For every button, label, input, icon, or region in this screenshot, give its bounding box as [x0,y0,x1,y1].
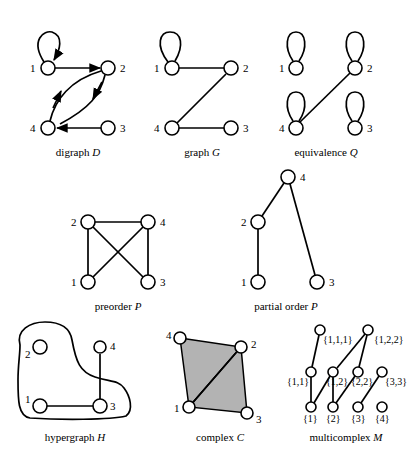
label-22: {2,2} [351,376,373,387]
caption-symbol: C [237,431,245,443]
caption-text: graph [184,146,210,158]
node-3 [101,121,115,135]
caption-preorder: preorder P [95,300,142,312]
node-1 [183,401,195,413]
node-1 [165,61,179,75]
node-label-2: 2 [25,348,31,360]
label-122: {1,2,2} [374,334,404,345]
loop-edge-3 [346,92,363,121]
graph-panel: 1 2 3 4 graph G [154,32,249,158]
caption-symbol: G [212,146,220,158]
node-2 [33,340,47,354]
node-1 [81,275,95,289]
caption-symbol: M [372,431,383,443]
node-label-3: 3 [160,276,166,288]
node-2 [81,215,95,229]
label-12: {1,2} [326,376,348,387]
node-4 [94,341,106,353]
node-label-3: 3 [256,413,262,425]
node-2 [251,215,265,229]
node-label-2: 2 [367,62,373,74]
caption-equivalence: equivalence Q [294,146,357,158]
caption-text: partial order [254,300,308,312]
caption-text: digraph [56,146,90,158]
node-label-2: 2 [120,62,126,74]
caption-symbol: P [134,300,142,312]
digraph-panel: 1 2 3 4 digraph D [30,32,126,158]
node-label-4: 4 [160,216,166,228]
node-label-4: 4 [154,122,160,134]
node-label-2: 2 [243,62,249,74]
node-3 [224,121,238,135]
node-3 [141,275,155,289]
edge-111-11 [312,335,319,367]
edge-2-4 [300,73,350,122]
node-label-1: 1 [174,402,180,414]
complex-panel: 1 2 3 4 complex C [166,329,262,443]
label-1: {1} [303,413,318,424]
node-label-3: 3 [367,122,373,134]
multicomplex-panel: {1,1,1} {1,2,2} {1,1} {1,2} {2,2} {3,3} … [287,325,407,443]
node-label-2: 2 [71,216,77,228]
caption-symbol: Q [350,146,358,158]
caption-hypergraph: hypergraph H [45,431,107,443]
node-1 [306,402,316,412]
node-4 [41,121,55,135]
node-label-4: 4 [30,122,36,134]
node-2 [235,341,247,353]
label-33: {3,3} [385,376,407,387]
label-3: {3} [351,413,366,424]
node-label-2: 2 [241,216,247,228]
node-3 [241,407,253,419]
diagram-canvas: 1 2 3 4 digraph D 1 2 3 4 graph G 1 2 3 … [0,0,420,466]
node-3 [353,402,363,412]
node-2 [224,61,238,75]
node-label-4: 4 [166,329,172,341]
node-1 [41,61,55,75]
caption-symbol: D [91,146,100,158]
node-122 [363,325,373,335]
loop-edge-1 [287,32,304,61]
node-label-3: 3 [120,122,126,134]
node-1 [251,275,265,289]
caption-digraph: digraph D [56,146,100,158]
node-label-4: 4 [300,171,306,183]
node-4 [165,121,179,135]
preorder-panel: 1 2 3 4 preorder P [71,215,166,312]
node-label-1: 1 [154,62,160,74]
node-label-1: 1 [241,276,247,288]
edge-4-2 [50,71,101,121]
label-111: {1,1,1} [323,334,353,345]
caption-symbol: H [96,431,106,443]
node-label-3: 3 [110,400,116,412]
equivalence-panel: 1 2 3 4 equivalence Q [279,32,373,158]
node-label-4: 4 [279,122,285,134]
loop-edge-1 [38,32,60,62]
node-2 [348,61,362,75]
caption-text: preorder [95,300,133,312]
node-label-1: 1 [30,62,36,74]
caption-text: equivalence [294,146,347,158]
edge-4-2 [262,183,284,216]
caption-graph: graph G [184,146,220,158]
edge-2-4 [60,75,105,124]
node-3 [348,121,362,135]
caption-text: hypergraph [45,431,95,443]
label-11: {1,1} [287,376,309,387]
loop-edge-4 [287,92,304,121]
loop-edge-1 [160,32,180,62]
node-2 [101,61,115,75]
node-label-1: 1 [25,393,31,405]
caption-multicomplex: multicomplex M [309,431,383,443]
edge-4-3 [290,184,315,275]
partial-order-panel: 1 2 3 4 partial order P [241,170,335,312]
node-label-2: 2 [251,338,257,350]
node-label-4: 4 [110,340,116,352]
loop-edge-2 [346,32,363,61]
node-4 [281,170,295,184]
caption-partial-order: partial order P [254,300,318,312]
node-label-1: 1 [71,276,77,288]
edge-2-4 [177,74,226,123]
node-1 [289,61,303,75]
caption-symbol: P [310,300,318,312]
